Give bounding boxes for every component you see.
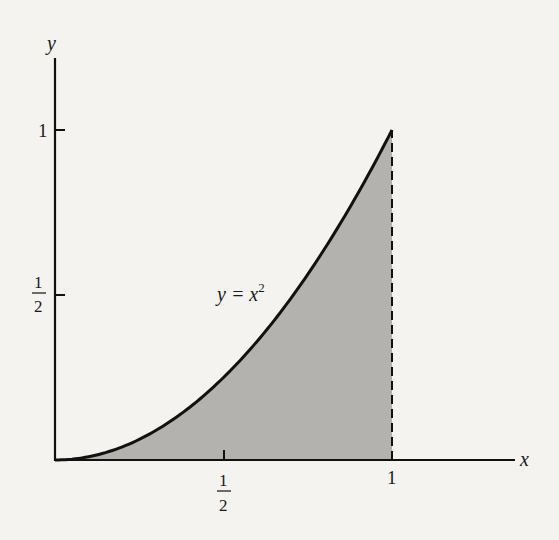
plot-area: x y 1 1 2 1 1 2 y = x2 (0, 0, 559, 540)
x-tick-label-half-den: 2 (219, 496, 228, 515)
curve-label-text: y = x (215, 283, 258, 306)
x-tick-label-1: 1 (387, 467, 397, 488)
y-tick-label-half-den: 2 (34, 297, 43, 316)
y-tick-label-half-num: 1 (34, 273, 43, 292)
x-axis-label: x (519, 448, 529, 470)
curve-label: y = x2 (215, 280, 265, 306)
y-axis-label: y (45, 32, 56, 55)
curve-label-exponent: 2 (258, 280, 265, 295)
x-tick-label-half-num: 1 (219, 471, 228, 490)
y-tick-label-1: 1 (38, 120, 48, 141)
